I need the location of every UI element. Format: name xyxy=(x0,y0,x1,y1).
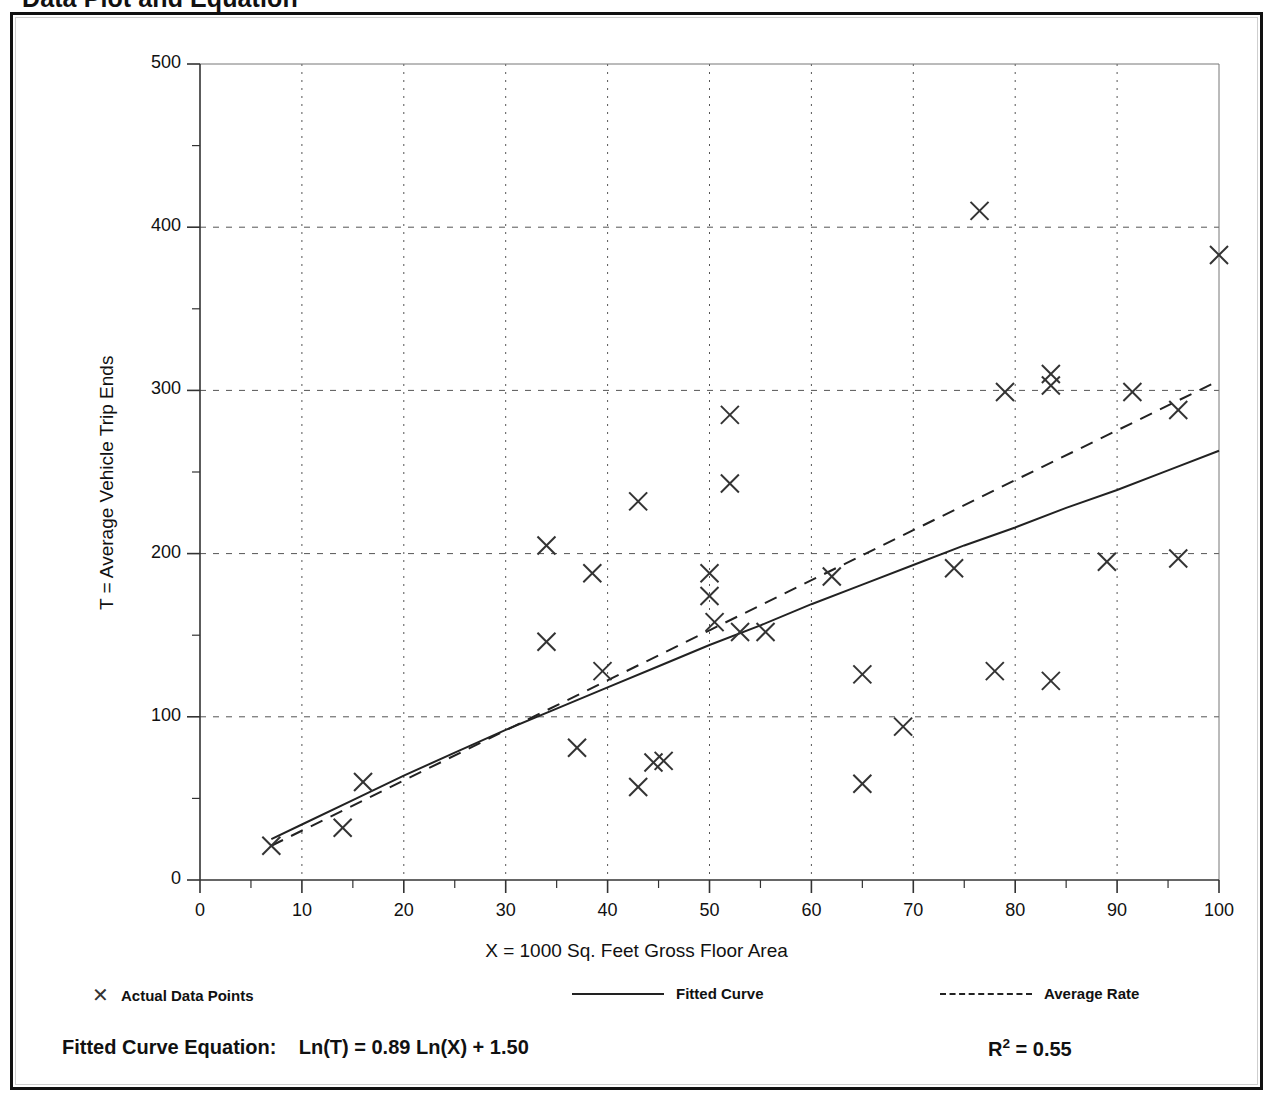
x-marker-icon: ✕ xyxy=(92,985,109,1005)
solid-line-icon xyxy=(572,993,664,995)
r-exponent: 2 xyxy=(1002,1036,1010,1051)
data-point-marker xyxy=(731,623,749,641)
data-point-marker xyxy=(1169,401,1187,419)
y-axis-tick-label: 400 xyxy=(121,215,181,236)
r-squared-value: R2 = 0.55 xyxy=(988,1036,1072,1061)
x-axis-tick-label: 40 xyxy=(578,900,638,921)
x-axis-tick-label: 50 xyxy=(680,900,740,921)
data-point-marker xyxy=(354,773,372,791)
data-point-marker xyxy=(568,739,586,757)
data-point-marker xyxy=(701,564,719,582)
data-point-marker xyxy=(629,778,647,796)
r-value: = 0.55 xyxy=(1016,1038,1072,1060)
r-symbol: R xyxy=(988,1038,1002,1060)
y-axis-tick-label: 200 xyxy=(121,542,181,563)
x-axis-tick-label: 0 xyxy=(170,900,230,921)
scatter-chart xyxy=(0,0,1273,1100)
legend-item-average-rate: Average Rate xyxy=(940,985,1139,1002)
x-axis-tick-label: 20 xyxy=(374,900,434,921)
fitted-curve-line xyxy=(271,451,1219,839)
legend-label-fitted-curve: Fitted Curve xyxy=(676,985,764,1002)
x-axis-tick-label: 80 xyxy=(985,900,1045,921)
y-axis-tick-label: 300 xyxy=(121,378,181,399)
data-point-marker xyxy=(721,406,739,424)
data-point-marker xyxy=(1042,672,1060,690)
data-point-marker xyxy=(894,718,912,736)
data-point-marker xyxy=(1123,383,1141,401)
data-point-marker xyxy=(537,633,555,651)
data-point-markers xyxy=(262,202,1228,855)
data-point-marker xyxy=(655,752,673,770)
y-axis-tick-label: 500 xyxy=(121,52,181,73)
data-point-marker xyxy=(701,587,719,605)
data-point-marker xyxy=(721,474,739,492)
x-axis-tick-label: 60 xyxy=(781,900,841,921)
y-axis-tick-label: 0 xyxy=(121,868,181,889)
equation-row: Fitted Curve Equation: Ln(T) = 0.89 Ln(X… xyxy=(0,1036,1273,1076)
data-point-marker xyxy=(629,492,647,510)
legend-item-fitted-curve: Fitted Curve xyxy=(572,985,764,1002)
x-axis-tick-label: 10 xyxy=(272,900,332,921)
legend-item-actual-data-points: ✕ Actual Data Points xyxy=(92,985,254,1005)
data-point-marker xyxy=(583,564,601,582)
data-point-marker xyxy=(853,665,871,683)
data-point-marker xyxy=(996,383,1014,401)
y-axis-title: T = Average Vehicle Trip Ends xyxy=(96,356,118,610)
x-axis-tick-label: 100 xyxy=(1189,900,1249,921)
legend-label-actual-data-points: Actual Data Points xyxy=(121,987,254,1004)
data-point-marker xyxy=(853,775,871,793)
data-point-marker xyxy=(945,559,963,577)
x-axis-title: X = 1000 Sq. Feet Gross Floor Area xyxy=(0,940,1273,962)
axis-ticks xyxy=(187,64,1219,893)
equation-label: Fitted Curve Equation: xyxy=(62,1036,276,1058)
data-point-marker xyxy=(971,202,989,220)
fitted-curve-equation: Fitted Curve Equation: Ln(T) = 0.89 Ln(X… xyxy=(62,1036,529,1059)
data-point-marker xyxy=(334,819,352,837)
dashed-line-icon xyxy=(940,993,1032,995)
data-point-marker xyxy=(594,662,612,680)
data-point-marker xyxy=(986,662,1004,680)
data-point-marker xyxy=(262,837,280,855)
x-axis-tick-label: 90 xyxy=(1087,900,1147,921)
data-point-marker xyxy=(1098,553,1116,571)
x-axis-tick-label: 70 xyxy=(883,900,943,921)
data-point-marker xyxy=(1042,377,1060,395)
x-axis-tick-label: 30 xyxy=(476,900,536,921)
legend-label-average-rate: Average Rate xyxy=(1044,985,1139,1002)
grid-lines xyxy=(200,64,1219,880)
chart-legend: ✕ Actual Data Points Fitted Curve Averag… xyxy=(0,985,1273,1017)
equation-formula: Ln(T) = 0.89 Ln(X) + 1.50 xyxy=(299,1036,529,1058)
data-point-marker xyxy=(1169,549,1187,567)
average-rate-line xyxy=(271,381,1219,846)
y-axis-tick-label: 100 xyxy=(121,705,181,726)
data-point-marker xyxy=(757,623,775,641)
data-point-marker xyxy=(537,536,555,554)
